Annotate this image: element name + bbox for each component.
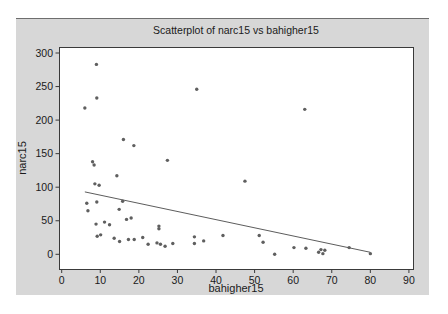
- scatter-point: [321, 252, 324, 255]
- x-tick-label: 80: [364, 274, 376, 286]
- scatter-point: [317, 251, 320, 254]
- scatter-point: [193, 235, 196, 238]
- scatter-point: [369, 252, 372, 255]
- scatter-point: [221, 234, 224, 237]
- scatter-point: [115, 174, 118, 177]
- scatter-point: [132, 144, 135, 147]
- scatter-point: [112, 236, 115, 239]
- scatterplot: Scatterplot of narc15 vs bahigher15 0102…: [16, 19, 429, 296]
- chart-panel: Scatterplot of narc15 vs bahigher15 0102…: [16, 18, 429, 295]
- x-tick-label: 60: [287, 274, 299, 286]
- scatter-point: [319, 248, 322, 251]
- scatter-point: [323, 249, 326, 252]
- scatter-point: [258, 234, 261, 237]
- scatter-point: [243, 179, 246, 182]
- x-tick-label: 30: [172, 274, 184, 286]
- scatter-point: [94, 222, 97, 225]
- scatter-point: [159, 243, 162, 246]
- scatter-point: [127, 238, 130, 241]
- y-tick-label: 100: [35, 181, 53, 193]
- x-tick-label: 90: [403, 274, 415, 286]
- scatter-point: [117, 208, 120, 211]
- scatter-point: [95, 234, 98, 237]
- scatter-point: [157, 227, 160, 230]
- y-tick-label: 50: [41, 214, 53, 226]
- scatter-point: [95, 96, 98, 99]
- y-tick-label: 0: [47, 248, 53, 260]
- scatter-point: [155, 241, 158, 244]
- y-tick-label: 250: [35, 80, 53, 92]
- scatter-point: [85, 202, 88, 205]
- y-tick-label: 150: [35, 147, 53, 159]
- scatter-point: [121, 200, 124, 203]
- x-axis-label: bahigher15: [208, 282, 263, 294]
- y-axis-label: narc15: [16, 141, 28, 175]
- scatter-point: [163, 245, 166, 248]
- scatter-point: [122, 138, 125, 141]
- scatter-point: [129, 216, 132, 219]
- scatter-point: [125, 218, 128, 221]
- scatter-point: [103, 220, 106, 223]
- scatter-point: [108, 223, 111, 226]
- scatter-point: [171, 242, 174, 245]
- x-tick-label: 70: [326, 274, 338, 286]
- scatter-point: [273, 253, 276, 256]
- scatter-point: [146, 243, 149, 246]
- scatter-point: [92, 163, 95, 166]
- scatter-point: [86, 209, 89, 212]
- x-tick-label: 0: [59, 274, 65, 286]
- scatter-point: [141, 236, 144, 239]
- scatter-point: [292, 246, 295, 249]
- scatter-point: [99, 233, 102, 236]
- scatter-point: [193, 242, 196, 245]
- scatter-point: [118, 240, 121, 243]
- scatter-point: [304, 247, 307, 250]
- scatter-point: [95, 63, 98, 66]
- scatter-point: [347, 246, 350, 249]
- plot-area: [60, 47, 414, 269]
- scatter-point: [303, 108, 306, 111]
- scatter-point: [93, 182, 96, 185]
- scatter-point: [195, 88, 198, 91]
- x-tick-label: 10: [94, 274, 106, 286]
- chart-title: Scatterplot of narc15 vs bahigher15: [153, 24, 319, 36]
- scatter-point: [83, 106, 86, 109]
- scatter-point: [97, 183, 100, 186]
- scatter-point: [261, 241, 264, 244]
- scatter-point: [133, 238, 136, 241]
- scatter-point: [166, 159, 169, 162]
- y-tick-label: 200: [35, 114, 53, 126]
- scatter-point: [202, 239, 205, 242]
- x-tick-label: 20: [133, 274, 145, 286]
- scatter-point: [95, 200, 98, 203]
- scatter-point: [91, 160, 94, 163]
- y-tick-label: 300: [35, 47, 53, 59]
